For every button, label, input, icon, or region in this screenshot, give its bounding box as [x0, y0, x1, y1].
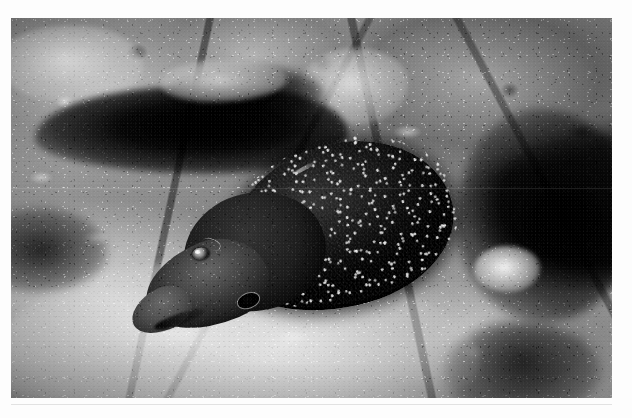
photograph [11, 18, 612, 398]
bottom-rule [11, 404, 612, 405]
fine-grain-layer [11, 18, 612, 398]
page-canvas: Black and white underwater photograph of… [0, 0, 632, 418]
